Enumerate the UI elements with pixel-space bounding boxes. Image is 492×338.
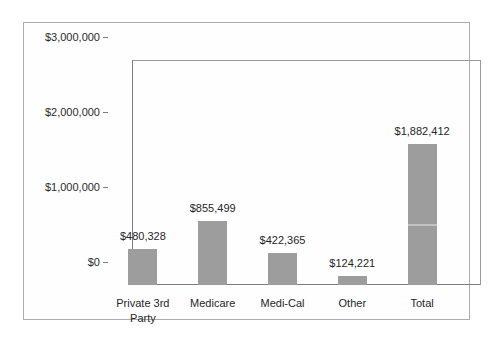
bar (198, 221, 227, 285)
bar-value-label: $480,328 (120, 230, 166, 243)
x-category-label: Medicare (178, 296, 248, 311)
x-category-label: Medi-Cal (248, 296, 318, 311)
bar-scan-artifact (408, 224, 437, 226)
bar-value-label: $855,499 (190, 202, 236, 215)
bar (408, 144, 437, 285)
bar-group: $480,328 (108, 60, 178, 285)
bar (338, 276, 367, 285)
bar-value-label: $124,221 (329, 257, 375, 270)
bar-value-label: $422,365 (260, 234, 306, 247)
x-category-label: Private 3rd Party (108, 296, 178, 326)
y-tick-label: $3,000,000 (28, 30, 100, 44)
bar (128, 249, 157, 285)
bar-group: $1,882,412 (387, 60, 457, 285)
bar-group: $124,221 (317, 60, 387, 285)
y-tick-mark (103, 37, 108, 38)
y-tick-label: $1,000,000 (28, 180, 100, 194)
bar-group: $422,365 (248, 60, 318, 285)
bar-value-label: $1,882,412 (395, 125, 450, 138)
bar-chart-image: $0$1,000,000$2,000,000$3,000,000 $480,32… (0, 0, 492, 338)
bar (268, 253, 297, 285)
x-category-label: Total (387, 296, 457, 311)
y-tick-label: $0 (28, 255, 100, 269)
y-tick-label: $2,000,000 (28, 105, 100, 119)
bar-group: $855,499 (178, 60, 248, 285)
x-category-label: Other (317, 296, 387, 311)
chart-frame: $0$1,000,000$2,000,000$3,000,000 $480,32… (23, 22, 470, 320)
